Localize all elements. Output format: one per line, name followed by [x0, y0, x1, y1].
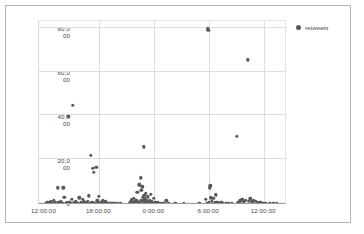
- data-point: [94, 165, 97, 168]
- data-point: [182, 202, 185, 204]
- data-point: [230, 202, 233, 204]
- data-point: [87, 194, 90, 197]
- data-point: [192, 202, 195, 204]
- gridline-horizontal: [39, 114, 285, 115]
- data-point: [67, 114, 70, 117]
- data-point: [136, 191, 139, 194]
- gridline-vertical: [154, 21, 155, 203]
- gridline-vertical: [209, 21, 210, 203]
- gridline-horizontal: [39, 27, 285, 28]
- gridline-vertical: [264, 21, 265, 203]
- scatter-plot-area[interactable]: [38, 20, 286, 204]
- data-point: [140, 189, 143, 192]
- data-point: [62, 186, 65, 189]
- data-point: [280, 202, 283, 204]
- data-point: [246, 58, 249, 61]
- gridline-horizontal: [39, 158, 285, 159]
- x-axis-tick-0: 12:00:00: [31, 207, 56, 215]
- data-point: [208, 184, 211, 187]
- data-point: [89, 154, 92, 157]
- data-point: [177, 202, 180, 204]
- data-point: [56, 186, 59, 189]
- data-point: [139, 176, 142, 179]
- data-point: [92, 171, 95, 174]
- x-axis-tick-4: 12:00:00: [251, 207, 276, 215]
- data-point: [149, 192, 152, 195]
- data-point: [119, 202, 122, 204]
- gridline-horizontal: [39, 71, 285, 72]
- data-point: [141, 185, 144, 188]
- chart-card: 80,00060,00040,00020,0000 12:00:0018:00:…: [5, 5, 351, 223]
- x-axis-tick-1: 18:00:00: [86, 207, 111, 215]
- data-point: [187, 202, 190, 204]
- data-point: [162, 202, 165, 204]
- data-point: [62, 196, 65, 199]
- data-point: [214, 193, 217, 196]
- chart-legend[interactable]: retweets: [296, 24, 328, 31]
- data-point: [197, 202, 200, 204]
- data-point: [235, 135, 238, 138]
- data-point: [71, 103, 74, 106]
- data-point: [212, 197, 215, 200]
- x-axis-tick-2: 0:00:00: [143, 207, 164, 215]
- legend-marker-icon: [296, 25, 301, 30]
- data-point: [275, 202, 278, 204]
- x-axis-tick-3: 6:00:00: [198, 207, 219, 215]
- gridline-vertical: [99, 21, 100, 203]
- chart-plot-wrapper: 80,00060,00040,00020,0000 12:00:0018:00:…: [6, 6, 352, 224]
- legend-label-retweets: retweets: [305, 24, 328, 31]
- data-point: [142, 145, 145, 148]
